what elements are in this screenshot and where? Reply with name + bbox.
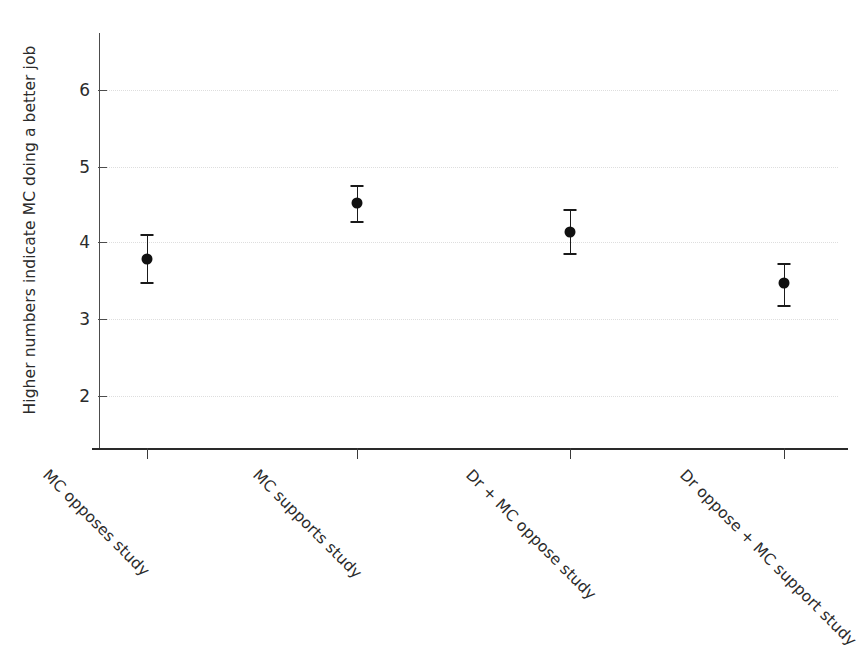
data-point-1 bbox=[142, 254, 153, 265]
x-tick-mark-4 bbox=[784, 448, 785, 459]
x-tick-mark-1 bbox=[147, 448, 148, 459]
y-tick-label: 2 bbox=[79, 388, 90, 405]
x-axis-label-3: Dr + MC oppose study bbox=[462, 466, 599, 603]
data-point-4 bbox=[779, 278, 790, 289]
y-tick-label: 3 bbox=[79, 311, 90, 328]
x-axis-label-2: MC supports study bbox=[249, 466, 365, 582]
error-cap-bottom-3 bbox=[564, 253, 577, 255]
error-cap-top-3 bbox=[564, 209, 577, 211]
gridline-2 bbox=[99, 396, 838, 397]
y-tick-label: 4 bbox=[79, 234, 90, 251]
error-cap-top-2 bbox=[351, 185, 364, 187]
x-axis-spine bbox=[92, 448, 848, 450]
error-cap-bottom-4 bbox=[778, 305, 791, 307]
y-tick-label: 6 bbox=[79, 82, 90, 99]
x-axis-label-1: MC opposes study bbox=[39, 466, 153, 580]
y-axis-title-area: Higher numbers indicate MC doing a bette… bbox=[0, 0, 60, 460]
error-cap-bottom-2 bbox=[351, 221, 364, 223]
figure-canvas: Higher numbers indicate MC doing a bette… bbox=[0, 0, 865, 667]
x-axis-label-4: Dr oppose + MC support study bbox=[676, 466, 860, 650]
error-cap-top-1 bbox=[141, 234, 154, 236]
gridline-4 bbox=[99, 242, 838, 243]
data-point-2 bbox=[352, 198, 363, 209]
error-cap-top-4 bbox=[778, 263, 791, 265]
y-axis-title: Higher numbers indicate MC doing a bette… bbox=[21, 45, 39, 414]
x-tick-mark-3 bbox=[570, 448, 571, 459]
x-tick-mark-2 bbox=[357, 448, 358, 459]
gridline-3 bbox=[99, 319, 838, 320]
plot-area: 6 5 4 3 2 bbox=[92, 30, 848, 450]
error-cap-bottom-1 bbox=[141, 282, 154, 284]
y-tick-label: 5 bbox=[79, 159, 90, 176]
gridline-5 bbox=[99, 167, 838, 168]
data-point-3 bbox=[565, 227, 576, 238]
gridline-6 bbox=[99, 90, 838, 91]
y-axis-spine bbox=[99, 33, 100, 448]
